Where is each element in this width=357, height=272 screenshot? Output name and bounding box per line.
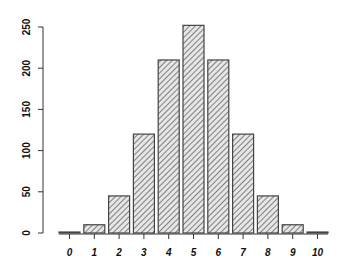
y-axis: 050100150200250 [21, 18, 43, 236]
y-tick-label: 0 [21, 230, 32, 236]
x-tick-label: 3 [141, 247, 147, 258]
y-tick-label: 250 [21, 18, 32, 35]
x-tick-label: 2 [115, 247, 122, 258]
x-tick-label: 7 [240, 247, 246, 258]
bar-10 [307, 232, 328, 233]
bar-9 [282, 225, 303, 233]
x-tick-label: 5 [191, 247, 197, 258]
x-tick-label: 0 [67, 247, 73, 258]
x-tick-label: 1 [92, 247, 98, 258]
bar-1 [84, 225, 105, 233]
bar-6 [208, 60, 229, 233]
y-tick-label: 200 [21, 59, 32, 76]
bar-chart: 050100150200250 012345678910 [0, 0, 357, 272]
bar-7 [233, 134, 254, 233]
bars [59, 25, 328, 233]
x-axis: 012345678910 [59, 234, 328, 258]
bar-3 [133, 134, 154, 233]
y-tick-label: 150 [21, 101, 32, 118]
bar-2 [109, 196, 130, 233]
y-tick-label: 100 [21, 142, 32, 159]
x-tick-label: 4 [165, 247, 172, 258]
x-tick-label: 10 [312, 247, 324, 258]
x-tick-label: 6 [216, 247, 222, 258]
x-tick-label: 8 [265, 247, 271, 258]
bar-4 [158, 60, 179, 233]
bar-8 [257, 196, 278, 233]
x-tick-label: 9 [290, 247, 296, 258]
bar-0 [59, 232, 80, 233]
bar-5 [183, 25, 204, 233]
y-tick-label: 50 [21, 186, 32, 198]
